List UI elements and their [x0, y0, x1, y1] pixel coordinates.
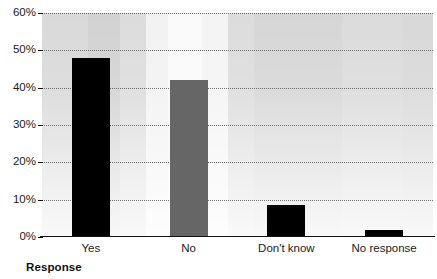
y-axis-label-10: 10% — [2, 194, 36, 205]
y-axis-label-20: 20% — [2, 156, 36, 167]
y-axis-label-40: 40% — [2, 82, 36, 93]
y-tick-mark-30 — [38, 125, 43, 126]
gridline-50 — [42, 50, 433, 51]
y-axis-label-60: 60% — [2, 7, 36, 18]
bar-no — [170, 80, 208, 237]
x-axis-label-3: No response — [324, 242, 437, 255]
y-tick-mark-50 — [38, 50, 43, 51]
gridline-60 — [42, 13, 433, 14]
y-axis-label-50: 50% — [2, 44, 36, 55]
bar-chart-figure: 0%10%20%30%40%50%60% YesNoDon't knowNo r… — [0, 0, 437, 279]
bar-don-t-know — [267, 205, 305, 237]
x-axis-line — [40, 236, 435, 237]
y-tick-mark-0 — [38, 237, 43, 238]
y-tick-mark-40 — [38, 88, 43, 89]
y-axis-label-30: 30% — [2, 119, 36, 130]
y-tick-mark-10 — [38, 200, 43, 201]
plot-area — [42, 13, 433, 237]
y-tick-mark-60 — [38, 13, 43, 14]
bar-yes — [72, 58, 110, 237]
x-axis-title: Response — [26, 261, 82, 273]
y-tick-mark-20 — [38, 162, 43, 163]
y-axis-label-0: 0% — [2, 231, 36, 242]
